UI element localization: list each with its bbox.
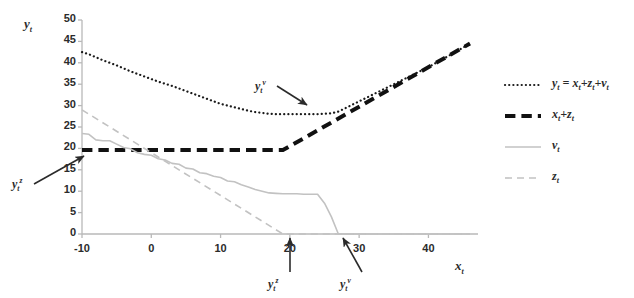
annotation-label-yv-middle: ytv	[255, 78, 266, 95]
legend-label-2: vt	[552, 138, 560, 154]
chart-figure: yt xt 05101520253035404550-10010203040yt…	[0, 0, 634, 298]
legend-label-1: xt+zt	[552, 107, 574, 123]
annotation-label-yz-left: ytz	[12, 176, 22, 193]
x-tick-label: 0	[133, 242, 169, 254]
x-tick-label: 30	[341, 242, 377, 254]
y-tick-label: 20	[50, 140, 76, 152]
legend-label-3: zt	[552, 169, 559, 185]
y-tick-label: 0	[50, 226, 76, 238]
annotation-label-yv-bottom: ytv	[340, 276, 351, 293]
x-tick-label: 20	[272, 242, 308, 254]
y-tick-label: 50	[50, 12, 76, 24]
x-tick-label: 40	[410, 242, 446, 254]
legend-label-0: yt = xt+zt+vt	[552, 76, 609, 92]
annotation-label-yz-bottom: ytz	[268, 276, 278, 293]
x-tick-label: -10	[64, 242, 100, 254]
annotation-arrow-yv-middle	[277, 86, 307, 105]
series-line-1	[82, 44, 470, 151]
y-tick-label: 40	[50, 55, 76, 67]
series-line-3	[82, 110, 470, 234]
y-tick-label: 25	[50, 119, 76, 131]
y-axis-title: yt	[24, 16, 32, 34]
y-tick-label: 15	[50, 162, 76, 174]
y-tick-label: 35	[50, 76, 76, 88]
y-tick-label: 45	[50, 33, 76, 45]
y-tick-label: 30	[50, 98, 76, 110]
y-tick-label: 10	[50, 183, 76, 195]
x-axis-title: xt	[455, 258, 464, 276]
y-tick-label: 5	[50, 205, 76, 217]
x-tick-label: 10	[203, 242, 239, 254]
